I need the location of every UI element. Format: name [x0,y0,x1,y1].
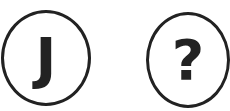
letter-j-icon: J [36,30,57,86]
question-mark-icon: ? [172,32,204,88]
letter-j-circle-icon: J [1,10,91,106]
question-mark-circle-icon: ? [146,12,230,108]
